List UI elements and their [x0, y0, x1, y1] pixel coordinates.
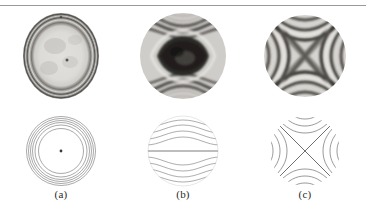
- figure-conoscopic-interference: (a): [0, 0, 366, 212]
- photo-c-biaxial-large-2v-figure: [259, 10, 351, 102]
- panel-a: (a): [0, 0, 122, 212]
- caption-b: (b): [122, 188, 244, 200]
- diagram-c-crossed-isogyres: [266, 112, 344, 190]
- panel-c: (c): [244, 0, 366, 212]
- panel-b: (b): [122, 0, 244, 212]
- photo-a-uniaxial-optic-axis-figure: [15, 10, 107, 102]
- caption-a: (a): [0, 188, 122, 200]
- diagram-b-lemniscate-isochromes: [144, 112, 222, 190]
- photo-b-biaxial-small-2v-figure: [137, 10, 229, 102]
- diagram-a-concentric-isochromes: [22, 112, 100, 190]
- caption-c: (c): [244, 188, 366, 200]
